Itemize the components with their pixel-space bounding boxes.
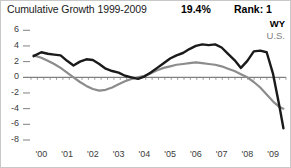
x-axis-tick-label: '03 (108, 149, 130, 159)
page-title: Cumulative Growth 1999-2009 (7, 3, 147, 15)
series-line-wy (34, 44, 284, 128)
chart-card: Cumulative Growth 1999-2009 19.4% Rank: … (0, 0, 291, 168)
y-axis-tick-label: -2 (3, 87, 19, 97)
y-axis-ticks (23, 30, 30, 140)
y-axis-tick-label: 2 (3, 56, 19, 66)
x-axis-tick-label: '06 (185, 149, 207, 159)
y-axis-tick-label: 4 (3, 40, 19, 50)
x-axis-tick-label: '02 (82, 149, 104, 159)
x-axis-labels: '00'01'02'03'04'05'06'07'08'09 (1, 149, 291, 165)
x-axis-tick-label: '05 (159, 149, 181, 159)
chart-header: Cumulative Growth 1999-2009 19.4% Rank: … (1, 1, 291, 18)
y-axis-tick-label: -6 (3, 118, 19, 128)
x-axis-tick-label: '08 (236, 149, 258, 159)
chart-plot-area: 6420-2-4-6-8 (1, 18, 291, 147)
growth-value: 19.4% (181, 3, 211, 15)
x-axis-tick-label: '00 (30, 149, 52, 159)
y-axis-tick-label: -8 (3, 134, 19, 144)
y-axis-tick-label: 6 (3, 24, 19, 34)
x-axis-tick-label: '01 (56, 149, 78, 159)
rank-badge: Rank: 1 (234, 3, 272, 15)
y-axis-tick-label: -4 (3, 103, 19, 113)
x-axis-tick-label: '07 (211, 149, 233, 159)
chart-svg (1, 18, 291, 147)
y-axis-tick-label: 0 (3, 71, 19, 81)
x-axis-tick-label: '04 (133, 149, 155, 159)
x-axis-tick-label: '09 (262, 149, 284, 159)
